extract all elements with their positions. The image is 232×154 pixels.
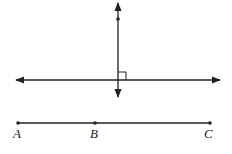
label-b: B — [90, 126, 98, 141]
point-on-vertical — [116, 17, 120, 21]
point-b — [93, 121, 97, 125]
label-a: A — [12, 126, 21, 141]
segment-abc: A B C — [12, 121, 213, 141]
point-a — [16, 121, 20, 125]
geometry-diagram: A B C — [0, 0, 232, 154]
label-c: C — [204, 126, 213, 141]
vertical-line — [116, 3, 120, 97]
right-angle-marker — [118, 72, 126, 80]
point-c — [208, 121, 212, 125]
